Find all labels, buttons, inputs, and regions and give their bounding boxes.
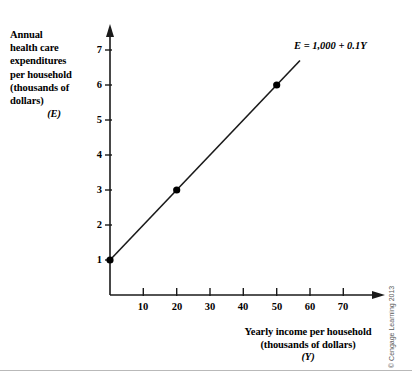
figure-container: Annual health care expenditures per hous… xyxy=(0,0,412,377)
x-tick-label: 30 xyxy=(200,301,220,312)
y-tick-label: 2 xyxy=(86,219,102,230)
x-tick-label: 10 xyxy=(133,301,153,312)
x-axis-label-line: Yearly income per household xyxy=(245,326,372,337)
equation-annotation: E = 1,000 + 0.1Y xyxy=(294,40,367,51)
data-point xyxy=(173,186,180,193)
y-tick-label: 7 xyxy=(86,44,102,55)
y-axis-label-line: (thousands of xyxy=(10,82,69,93)
y-tick-label: 4 xyxy=(86,149,102,160)
x-tick-label: 70 xyxy=(333,301,353,312)
y-axis-label-line: per household xyxy=(10,69,72,80)
x-tick-label: 60 xyxy=(300,301,320,312)
y-axis-label-line: dollars) xyxy=(10,95,44,106)
x-tick-label: 20 xyxy=(167,301,187,312)
y-tick-label: 3 xyxy=(86,184,102,195)
bottom-divider xyxy=(0,370,412,371)
data-point xyxy=(106,256,113,263)
y-tick-label: 1 xyxy=(86,254,102,265)
x-axis-symbol: (Y) xyxy=(228,351,388,364)
copyright-credit: © Cengage Learning 2013 xyxy=(388,356,412,368)
y-axis-label-line: health care xyxy=(10,42,59,53)
y-axis xyxy=(106,24,114,295)
x-tick-label: 40 xyxy=(233,301,253,312)
y-axis-label-line: Annual xyxy=(10,29,43,40)
y-tick-label: 6 xyxy=(86,79,102,90)
y-tick-label: 5 xyxy=(86,114,102,125)
x-axis-label: Yearly income per household (thousands o… xyxy=(228,326,388,364)
data-line xyxy=(110,61,300,261)
x-tick-label: 50 xyxy=(267,301,287,312)
x-axis-label-line: (thousands of dollars) xyxy=(260,339,355,350)
data-point xyxy=(273,81,280,88)
y-axis-label: Annual health care expenditures per hous… xyxy=(10,28,98,120)
y-axis-ticks xyxy=(105,50,112,260)
y-axis-symbol: (E) xyxy=(10,107,98,120)
y-axis-label-line: expenditures xyxy=(10,55,66,66)
